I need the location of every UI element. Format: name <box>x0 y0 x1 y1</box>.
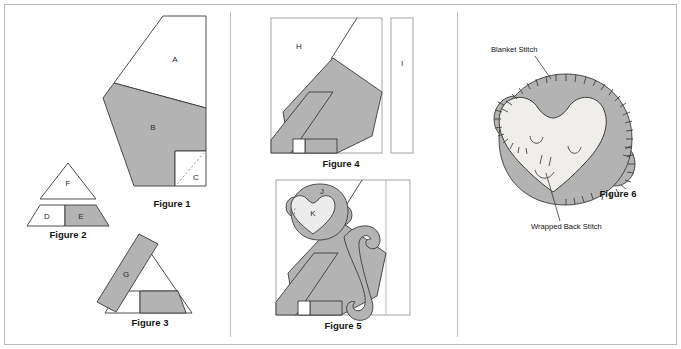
piece-label-g: G <box>123 270 129 279</box>
figure-6-group: Figure 6 <box>494 74 636 205</box>
figure-2-group: F D E Figure 2 <box>27 163 109 240</box>
piece-e-shape <box>65 205 109 226</box>
figure-5-foot-white <box>298 301 310 315</box>
figure-6-caption: Figure 6 <box>600 188 637 199</box>
piece-i-block <box>391 18 413 153</box>
annotation-blanket-stitch: Blanket Stitch <box>491 45 551 79</box>
piece-label-e: E <box>78 212 83 221</box>
diagram-page: A B C Figure 1 F D E Figure 2 <box>0 0 681 349</box>
figure-5-caption: Figure 5 <box>325 320 363 331</box>
wrapped-back-stitch-label: Wrapped Back Stitch <box>531 222 602 231</box>
figure-4-foot-white <box>293 139 305 153</box>
blanket-stitch-leader <box>535 56 551 79</box>
figure-3-gray-rect <box>140 291 186 313</box>
piece-label-j: J <box>320 187 324 196</box>
figure-3-caption: Figure 3 <box>132 317 169 328</box>
figure-3-group: G Figure 3 <box>97 234 192 328</box>
figure-5-foot <box>310 301 342 315</box>
figure-5-group: J K Figure 5 <box>276 180 410 331</box>
figure-1-caption: Figure 1 <box>154 198 192 209</box>
piece-label-a: A <box>172 55 178 64</box>
piece-label-k: K <box>310 209 316 218</box>
figure-4-caption: Figure 4 <box>323 158 361 169</box>
piece-label-f: F <box>66 179 71 188</box>
figure-4-foot <box>305 139 337 153</box>
figure-4-group: H I Figure 4 <box>271 18 413 169</box>
piece-label-d: D <box>44 212 50 221</box>
piece-label-c: C <box>193 173 199 182</box>
piece-label-b: B <box>150 123 155 132</box>
piece-label-h: H <box>296 42 302 51</box>
blanket-stitch-label: Blanket Stitch <box>491 45 537 54</box>
figure-1-group: A B C Figure 1 <box>103 16 206 209</box>
figure-2-caption: Figure 2 <box>50 229 87 240</box>
piece-label-i: I <box>401 59 403 68</box>
quilt-diagram-canvas: A B C Figure 1 F D E Figure 2 <box>0 0 681 349</box>
